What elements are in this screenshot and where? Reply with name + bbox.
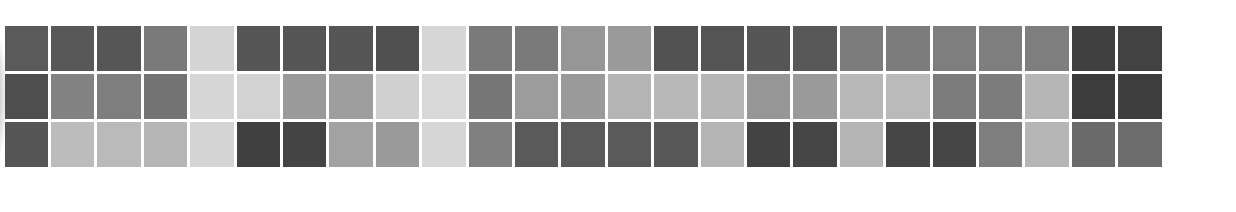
heatmap-cell: [469, 122, 513, 167]
heatmap-cell: [1025, 26, 1069, 71]
heatmap-cell: [97, 122, 141, 167]
heatmap-cell: [608, 26, 652, 71]
heatmap-cell: [933, 122, 977, 167]
heatmap-cell: [886, 122, 930, 167]
heatmap-cell: [793, 122, 837, 167]
heatmap-cell: [793, 74, 837, 119]
heatmap-cell: [561, 122, 605, 167]
heatmap-cell: [747, 74, 791, 119]
heatmap-cell: [793, 26, 837, 71]
heatmap-cell: [701, 26, 745, 71]
heatmap-cell: [422, 26, 466, 71]
heatmap-cell: [5, 26, 49, 71]
heatmap-cell: [51, 26, 95, 71]
heatmap-cell: [5, 122, 49, 167]
heatmap-cell: [422, 74, 466, 119]
heatmap-cell: [701, 74, 745, 119]
heatmap-cell: [840, 122, 884, 167]
heatmap-cell: [840, 26, 884, 71]
heatmap-cell: [515, 74, 559, 119]
heatmap-cell: [979, 26, 1023, 71]
heatmap-cell: [1118, 74, 1162, 119]
heatmap-cell: [1118, 122, 1162, 167]
heatmap-cell: [1025, 122, 1069, 167]
heatmap-cell: [654, 26, 698, 71]
heatmap-cell: [840, 74, 884, 119]
heatmap-cell: [376, 122, 420, 167]
heatmap-cell: [701, 122, 745, 167]
heatmap-cell: [561, 74, 605, 119]
heatmap-cell: [886, 26, 930, 71]
heatmap-cell: [608, 74, 652, 119]
heatmap-cell: [97, 74, 141, 119]
heatmap-cell: [97, 26, 141, 71]
heatmap-cell: [283, 74, 327, 119]
heatmap-cell: [469, 26, 513, 71]
heatmap-grid: [0, 0, 1236, 212]
heatmap-cell: [561, 26, 605, 71]
heatmap-cell: [144, 74, 188, 119]
heatmap-cell: [144, 26, 188, 71]
heatmap-cell: [979, 74, 1023, 119]
heatmap-cell: [608, 122, 652, 167]
heatmap-cell: [283, 122, 327, 167]
heatmap-cell: [1118, 26, 1162, 71]
heatmap-cell: [747, 26, 791, 71]
heatmap-cell: [422, 122, 466, 167]
heatmap-cell: [329, 74, 373, 119]
heatmap-cell: [654, 122, 698, 167]
heatmap-cell: [237, 26, 281, 71]
heatmap-cell: [515, 122, 559, 167]
heatmap-cell: [747, 122, 791, 167]
heatmap-cell: [1072, 122, 1116, 167]
heatmap-cell: [237, 74, 281, 119]
heatmap-cell: [654, 74, 698, 119]
heatmap-cell: [51, 122, 95, 167]
heatmap-cell: [329, 26, 373, 71]
heatmap-cell: [51, 74, 95, 119]
heatmap-cell: [1072, 74, 1116, 119]
heatmap-cell: [376, 26, 420, 71]
heatmap-cell: [283, 26, 327, 71]
heatmap-cell: [237, 122, 281, 167]
heatmap-cell: [1025, 74, 1069, 119]
heatmap-cell: [933, 74, 977, 119]
heatmap-cell: [886, 74, 930, 119]
heatmap-cell: [5, 74, 49, 119]
heatmap-cell: [933, 26, 977, 71]
heatmap-cell: [469, 74, 513, 119]
heatmap-cell: [144, 122, 188, 167]
heatmap-cell: [190, 122, 234, 167]
heatmap-cell: [376, 74, 420, 119]
heatmap-cell: [515, 26, 559, 71]
heatmap-cell: [1072, 26, 1116, 71]
heatmap-cell: [979, 122, 1023, 167]
heatmap-cell: [190, 74, 234, 119]
heatmap-cell: [329, 122, 373, 167]
heatmap-cell: [190, 26, 234, 71]
